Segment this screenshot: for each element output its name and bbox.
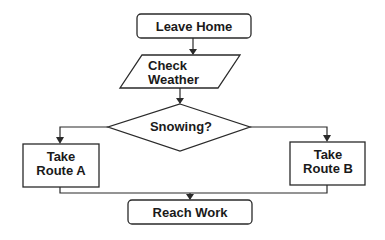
check-weather-line1: Check — [148, 58, 188, 73]
route-a-line1: Take — [47, 149, 76, 164]
node-route-a: Take Route A — [23, 144, 99, 187]
route-b-line1: Take — [314, 147, 343, 162]
node-snowing-decision: Snowing? — [108, 104, 250, 151]
node-route-b: Take Route B — [290, 142, 365, 185]
edge-snowing-to-route-a — [60, 127, 108, 142]
arrowhead-icon — [176, 98, 184, 104]
edge-routes-merge — [60, 185, 327, 193]
route-b-line2: Route B — [303, 161, 353, 176]
reach-work-label: Reach Work — [153, 205, 229, 220]
edge-snowing-to-route-b — [250, 127, 327, 140]
arrowhead-icon — [189, 49, 197, 55]
arrowhead-icon — [186, 194, 194, 200]
arrowhead-icon — [56, 137, 64, 144]
node-check-weather: Check Weather — [120, 55, 240, 88]
arrowhead-icon — [323, 135, 331, 142]
snowing-label: Snowing? — [150, 119, 212, 134]
flowchart: Leave Home Check Weather Snowing? Take R… — [0, 0, 385, 240]
node-leave-home: Leave Home — [137, 14, 251, 38]
route-a-line2: Route A — [36, 163, 86, 178]
leave-home-label: Leave Home — [156, 19, 233, 34]
node-reach-work: Reach Work — [128, 200, 252, 224]
check-weather-line2: Weather — [148, 72, 199, 87]
